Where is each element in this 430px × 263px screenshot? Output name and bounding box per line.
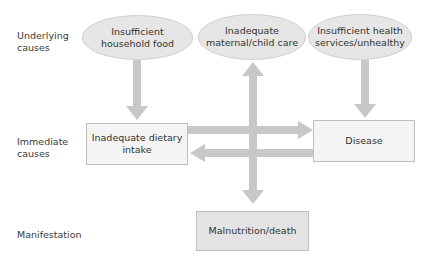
arrow-food-to-intake xyxy=(126,60,148,120)
node-insufficient-health-services: Insufficient health services/unhealthy xyxy=(308,14,412,60)
node-label: Disease xyxy=(345,135,382,147)
node-malnutrition-death: Malnutrition/death xyxy=(196,211,309,251)
node-inadequate-dietary-intake: Inadequate dietary intake xyxy=(86,123,188,165)
node-insufficient-household-food: Insufficient household food xyxy=(82,15,193,60)
node-label: Malnutrition/death xyxy=(209,225,297,237)
node-label: Insufficient health services/unhealthy xyxy=(315,25,405,49)
node-label: Inadequate maternal/child care xyxy=(206,25,298,49)
arrow-health-to-disease xyxy=(354,60,376,118)
node-label: Inadequate dietary intake xyxy=(92,132,183,156)
node-label: Insufficient household food xyxy=(101,26,174,50)
node-disease: Disease xyxy=(313,120,415,162)
node-inadequate-maternal-child-care: Inadequate maternal/child care xyxy=(198,14,306,60)
